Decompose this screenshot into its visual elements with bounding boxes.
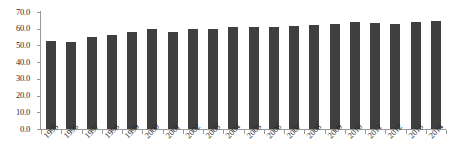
y-axis-tick-label: 60.0 bbox=[0, 24, 30, 33]
x-axis-tick-mark bbox=[82, 130, 83, 134]
x-axis-tick-mark bbox=[142, 130, 143, 134]
x-axis-tick-mark bbox=[264, 130, 265, 134]
y-axis-tick-mark bbox=[37, 112, 41, 113]
x-axis-tick-mark bbox=[325, 130, 326, 134]
y-axis-tick-mark bbox=[37, 29, 41, 30]
bar bbox=[289, 26, 299, 129]
bar bbox=[350, 22, 360, 129]
bar bbox=[411, 22, 421, 129]
y-axis-tick-label: 30.0 bbox=[0, 74, 30, 83]
bar-chart: 70.060.050.040.030.020.010.00.0 19951996… bbox=[0, 0, 454, 168]
y-axis-tick-mark bbox=[37, 79, 41, 80]
bar bbox=[249, 27, 259, 129]
x-axis-tick-mark bbox=[203, 130, 204, 134]
y-axis-tick-labels: 70.060.050.040.030.020.010.00.0 bbox=[0, 0, 36, 168]
y-axis-tick-mark bbox=[37, 45, 41, 46]
x-axis-tick-mark bbox=[41, 130, 42, 134]
bar bbox=[107, 35, 117, 129]
bar bbox=[370, 23, 380, 129]
y-axis-tick-label: 10.0 bbox=[0, 108, 30, 117]
bar bbox=[188, 29, 198, 129]
x-axis-tick-mark bbox=[345, 130, 346, 134]
x-axis-tick-mark bbox=[61, 130, 62, 134]
y-axis-tick-mark bbox=[37, 96, 41, 97]
bar bbox=[390, 24, 400, 129]
bar bbox=[330, 24, 340, 129]
x-axis-tick-mark bbox=[446, 130, 447, 134]
x-axis-tick-mark bbox=[385, 130, 386, 134]
plot-area bbox=[41, 12, 446, 129]
x-axis-tick-mark bbox=[163, 130, 164, 134]
bar bbox=[309, 25, 319, 129]
bar bbox=[127, 32, 137, 129]
bar bbox=[46, 41, 56, 129]
x-axis-tick-mark bbox=[365, 130, 366, 134]
bar bbox=[208, 29, 218, 129]
bar bbox=[431, 21, 441, 129]
bar bbox=[168, 32, 178, 129]
bar bbox=[269, 27, 279, 129]
x-axis-tick-mark bbox=[284, 130, 285, 134]
y-axis-tick-label: 20.0 bbox=[0, 91, 30, 100]
x-axis-tick-mark bbox=[122, 130, 123, 134]
x-axis-tick-mark bbox=[426, 130, 427, 134]
bar bbox=[87, 37, 97, 129]
bar bbox=[228, 27, 238, 129]
bar bbox=[66, 42, 76, 129]
x-axis-tick-mark bbox=[406, 130, 407, 134]
y-axis-tick-label: 50.0 bbox=[0, 41, 30, 50]
bar bbox=[147, 29, 157, 129]
y-axis-tick-mark bbox=[37, 12, 41, 13]
x-axis-tick-mark bbox=[244, 130, 245, 134]
x-axis-tick-mark bbox=[102, 130, 103, 134]
x-axis-tick-mark bbox=[304, 130, 305, 134]
y-axis-tick-label: 70.0 bbox=[0, 8, 30, 17]
y-axis-tick-mark bbox=[37, 62, 41, 63]
y-axis-tick-label: 0.0 bbox=[0, 125, 30, 134]
y-axis-tick-label: 40.0 bbox=[0, 58, 30, 67]
x-axis-tick-mark bbox=[183, 130, 184, 134]
x-axis-tick-mark bbox=[223, 130, 224, 134]
